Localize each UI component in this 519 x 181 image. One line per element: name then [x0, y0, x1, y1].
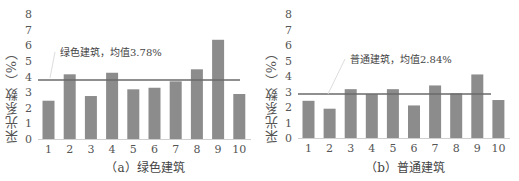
y-tick-label: 2	[285, 101, 292, 114]
y-axis-title: 采光系数（%）	[2, 46, 21, 143]
bar	[64, 74, 76, 139]
x-tick-label: 5	[130, 143, 137, 156]
y-tick-label: 2	[25, 102, 32, 115]
y-tick-label: 8	[25, 8, 32, 21]
bar	[408, 105, 420, 138]
x-tick-label: 2	[66, 143, 73, 156]
chart-caption: （a）绿色建筑	[95, 158, 195, 175]
bar	[127, 89, 139, 139]
bar	[471, 74, 483, 138]
y-tick-label: 8	[285, 8, 292, 21]
x-tick-label: 6	[151, 143, 158, 156]
bar	[85, 96, 97, 139]
bar	[212, 40, 224, 139]
x-tick-label: 5	[389, 142, 396, 155]
x-tick-label: 7	[172, 143, 179, 156]
bar	[345, 89, 357, 138]
x-tick-label: 9	[215, 143, 222, 156]
y-tick-label: 4	[285, 70, 292, 83]
bar	[366, 94, 378, 138]
y-tick-label: 3	[25, 86, 32, 99]
y-tick-label: 7	[25, 24, 32, 37]
bar	[149, 88, 161, 139]
y-tick-label: 4	[25, 71, 32, 84]
y-tick-label: 1	[25, 117, 32, 130]
bar	[170, 81, 182, 139]
y-tick-label: 0	[285, 132, 292, 145]
x-tick-label: 8	[193, 143, 200, 156]
bar	[303, 101, 315, 138]
x-tick-label: 1	[305, 142, 312, 155]
x-tick-label: 4	[109, 143, 116, 156]
bar-chart-ordinary: 01234567812345678910普通建筑，均值2.84%	[260, 0, 519, 181]
y-axis-title: 采光系数（%）	[262, 46, 281, 143]
x-tick-label: 6	[411, 142, 418, 155]
chart-panel-green: 01234567812345678910绿色建筑，均值3.78% 采光系数（%）…	[0, 0, 260, 181]
x-tick-label: 2	[326, 142, 333, 155]
bar	[450, 93, 462, 138]
y-tick-label: 0	[25, 133, 32, 146]
chart-caption: （b）普通建筑	[355, 158, 455, 175]
mean-annotation: 普通建筑，均值2.84%	[350, 53, 452, 65]
x-tick-label: 3	[347, 142, 354, 155]
bar-chart-green: 01234567812345678910绿色建筑，均值3.78%	[0, 0, 260, 181]
y-tick-label: 5	[285, 55, 292, 68]
annotation-leader-line	[50, 52, 55, 78]
y-tick-label: 7	[285, 24, 292, 37]
x-tick-label: 8	[453, 142, 460, 155]
x-tick-label: 3	[87, 143, 94, 156]
x-tick-label: 1	[45, 143, 52, 156]
bar	[233, 94, 245, 139]
bar	[387, 89, 399, 138]
mean-annotation: 绿色建筑，均值3.78%	[60, 46, 162, 58]
bar	[106, 73, 118, 139]
x-tick-label: 7	[432, 142, 439, 155]
x-tick-label: 4	[368, 142, 375, 155]
y-tick-label: 6	[25, 39, 32, 52]
bar	[492, 100, 504, 138]
x-tick-label: 10	[491, 142, 505, 155]
bar	[43, 101, 55, 139]
bar	[324, 109, 336, 138]
y-tick-label: 3	[285, 86, 292, 99]
y-tick-label: 6	[285, 39, 292, 52]
annotation-leader-line	[328, 59, 345, 94]
x-tick-label: 9	[474, 142, 481, 155]
y-tick-label: 1	[285, 117, 292, 130]
y-tick-label: 5	[25, 55, 32, 68]
chart-panel-ordinary: 01234567812345678910普通建筑，均值2.84% 采光系数（%）…	[260, 0, 519, 181]
x-tick-label: 10	[232, 143, 246, 156]
